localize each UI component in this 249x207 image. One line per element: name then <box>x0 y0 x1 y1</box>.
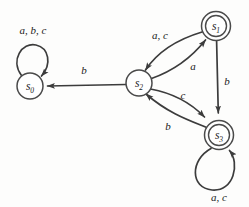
transition-s2-to-s0: b <box>48 64 127 86</box>
transition-s0-self: a, b, c <box>17 24 48 76</box>
transition-s1-to-s3-label: b <box>224 75 230 87</box>
transition-s2-to-s0-arrow <box>48 85 127 87</box>
state-s2-subscript: 2 <box>139 83 143 92</box>
transition-s0-self-arrow <box>17 45 48 76</box>
transition-s2-to-s1: a <box>152 40 206 79</box>
state-node-s3[interactable]: s3 <box>205 121 234 150</box>
transition-s2-to-s0-label: b <box>81 64 87 76</box>
transition-s1-to-s3-arrow <box>217 41 219 113</box>
state-s3-subscript: 3 <box>218 135 223 144</box>
automaton-diagram-canvas: a, b, c b a, c a b c b <box>0 0 249 207</box>
transition-s3-to-s2-label: b <box>165 120 171 132</box>
transition-s3-to-s2: b <box>146 94 206 132</box>
state-node-s1[interactable]: s1 <box>202 12 231 41</box>
state-node-s0[interactable]: s0 <box>17 73 43 99</box>
transition-s3-self: a, c <box>195 149 234 204</box>
transition-s0-self-label: a, b, c <box>20 24 47 36</box>
state-node-s2[interactable]: s2 <box>126 70 152 96</box>
transition-s3-self-arrow <box>195 149 234 191</box>
state-diagram-svg: a, b, c b a, c a b c b <box>0 0 249 207</box>
transition-s2-to-s1-arrow <box>152 40 206 79</box>
state-s0-subscript: 0 <box>30 86 34 95</box>
transition-s2-to-s1-label: a <box>190 60 196 72</box>
transition-s1-to-s3: b <box>217 41 231 113</box>
transition-s1-to-s2-label: a, c <box>152 29 168 41</box>
transition-s3-self-label: a, c <box>211 191 227 203</box>
state-s1-subscript: 1 <box>216 26 220 35</box>
transition-s2-to-s3-label: c <box>181 89 186 101</box>
